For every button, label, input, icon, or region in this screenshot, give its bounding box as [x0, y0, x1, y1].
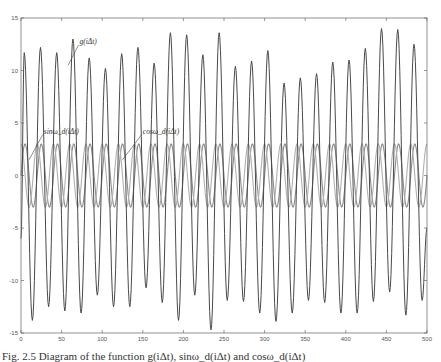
y-tick-label: 10: [11, 68, 18, 74]
series-layer: [21, 29, 427, 330]
x-tick-label: 100: [97, 336, 108, 342]
annotation-label: g(iΔt): [79, 37, 97, 46]
x-tick-label: 350: [300, 336, 311, 342]
y-tick-label: -15: [9, 330, 18, 336]
y-tick-label: -5: [13, 225, 19, 231]
x-tick-label: 50: [58, 336, 65, 342]
x-tick-label: 400: [341, 336, 352, 342]
x-tick-label: 500: [422, 336, 433, 342]
y-tick-label: 5: [15, 120, 19, 126]
x-tick-label: 200: [178, 336, 189, 342]
x-tick-label: 250: [219, 336, 230, 342]
annotation-label: cosω_d(iΔt): [143, 127, 180, 136]
y-tick-label: 15: [11, 15, 18, 21]
y-tick-label: 0: [15, 173, 19, 179]
x-tick-label: 0: [19, 336, 23, 342]
y-tick-label: -10: [9, 278, 18, 284]
annotation-label: sinω_d(iΔt): [44, 127, 80, 136]
x-tick-label: 300: [260, 336, 271, 342]
x-tick-label: 150: [138, 336, 149, 342]
annotation-leader: [68, 45, 78, 65]
figure-caption: Fig. 2.5 Diagram of the function g(iΔt),…: [2, 350, 305, 362]
x-tick-label: 450: [381, 336, 392, 342]
